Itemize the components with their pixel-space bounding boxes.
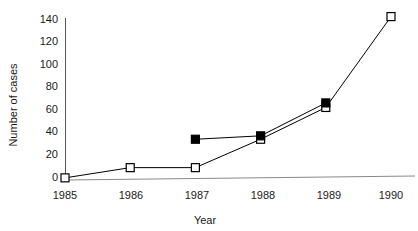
data-point-marker (387, 13, 395, 21)
data-point-marker (322, 99, 330, 107)
y-tick-label-140: 140 (40, 13, 58, 25)
x-axis-title: Year (194, 214, 217, 226)
data-point-marker (126, 164, 134, 172)
x-tick-label-1988: 1988 (251, 189, 275, 201)
y-tick-label-120: 120 (40, 35, 58, 47)
line-chart: 140 120 100 80 60 40 20 0 1985 1986 1987… (0, 0, 418, 231)
series-markers-filled-square (191, 99, 329, 143)
x-tick-label-1986: 1986 (119, 189, 143, 201)
y-tick-label-80: 80 (46, 80, 58, 92)
series-markers-open-square (61, 13, 395, 182)
y-tick-label-60: 60 (46, 103, 58, 115)
y-tick-label-20: 20 (46, 148, 58, 160)
x-axis-baseline (65, 176, 415, 180)
chart-canvas: 140 120 100 80 60 40 20 0 1985 1986 1987… (0, 0, 418, 231)
x-tick-label-1987: 1987 (185, 189, 209, 201)
y-axis-title: Number of cases (7, 63, 19, 147)
data-point-marker (257, 132, 265, 140)
x-tick-label-1985: 1985 (53, 189, 77, 201)
data-point-marker (61, 174, 69, 182)
x-tick-label-1990: 1990 (379, 189, 403, 201)
series-line-open-square (65, 17, 391, 178)
y-tick-label-40: 40 (46, 125, 58, 137)
x-tick-label-1989: 1989 (317, 189, 341, 201)
y-tick-label-0: 0 (52, 171, 58, 183)
y-tick-label-100: 100 (40, 58, 58, 70)
data-point-marker (191, 164, 199, 172)
data-point-marker (191, 135, 199, 143)
